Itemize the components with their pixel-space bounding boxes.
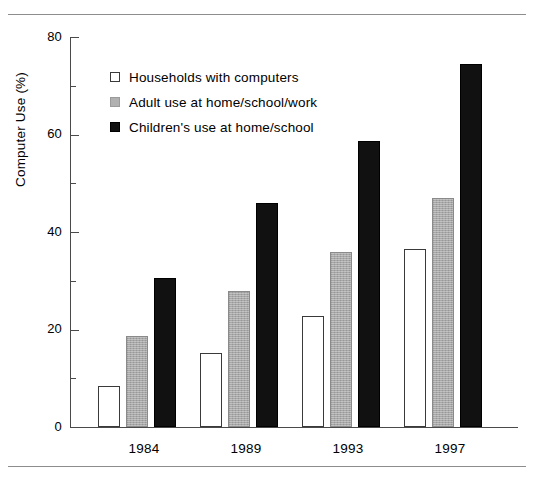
- y-tick-minor-50: [71, 183, 76, 184]
- bar-1989-households[interactable]: [200, 353, 222, 427]
- x-axis-line: [70, 427, 518, 428]
- y-tick-label-40: 40: [22, 225, 62, 238]
- legend-item-children[interactable]: Children's use at home/school: [110, 116, 317, 138]
- y-tick-minor-30: [71, 281, 76, 282]
- bar-1997-adult[interactable]: [432, 198, 454, 427]
- bar-1989-adult[interactable]: [228, 291, 250, 428]
- y-tick-major-80: [71, 37, 79, 38]
- legend-label-adult: Adult use at home/school/work: [129, 95, 317, 110]
- chart-legend: Households with computers Adult use at h…: [110, 66, 317, 141]
- bar-1993-children[interactable]: [358, 141, 380, 427]
- y-tick-label-60: 60: [22, 127, 62, 140]
- legend-label-children: Children's use at home/school: [129, 120, 314, 135]
- legend-swatch-black-icon: [110, 122, 120, 132]
- legend-item-households[interactable]: Households with computers: [110, 66, 317, 88]
- y-tick-major-20: [71, 330, 79, 331]
- y-tick-label-20: 20: [22, 322, 62, 335]
- legend-swatch-white-icon: [110, 72, 120, 82]
- x-tick-label-1984: 1984: [104, 441, 184, 456]
- legend-item-adult[interactable]: Adult use at home/school/work: [110, 91, 317, 113]
- bar-1989-children[interactable]: [256, 203, 278, 427]
- y-tick-minor-10: [71, 378, 76, 379]
- y-tick-label-0: 0: [22, 420, 62, 433]
- bar-1984-households[interactable]: [98, 386, 120, 427]
- x-tick-label-1993: 1993: [308, 441, 388, 456]
- y-tick-label-80: 80: [22, 30, 62, 43]
- x-tick-label-1997: 1997: [410, 441, 490, 456]
- bar-group-1997: [398, 37, 502, 427]
- bar-1984-children[interactable]: [154, 278, 176, 427]
- bar-1993-adult[interactable]: [330, 252, 352, 428]
- legend-swatch-gray-icon: [110, 97, 120, 107]
- page-rule-top: [8, 14, 526, 15]
- figure-canvas: Computer Use (%) 80 60 40 20 0: [0, 0, 534, 480]
- bar-1997-children[interactable]: [460, 64, 482, 427]
- y-tick-major-60: [71, 135, 79, 136]
- y-tick-major-40: [71, 232, 79, 233]
- page-rule-bottom: [8, 466, 526, 467]
- bar-1997-households[interactable]: [404, 249, 426, 427]
- x-tick-label-1989: 1989: [206, 441, 286, 456]
- y-tick-minor-70: [71, 86, 76, 87]
- bar-1984-adult[interactable]: [126, 336, 148, 427]
- bar-1993-households[interactable]: [302, 316, 324, 427]
- legend-label-households: Households with computers: [129, 70, 299, 85]
